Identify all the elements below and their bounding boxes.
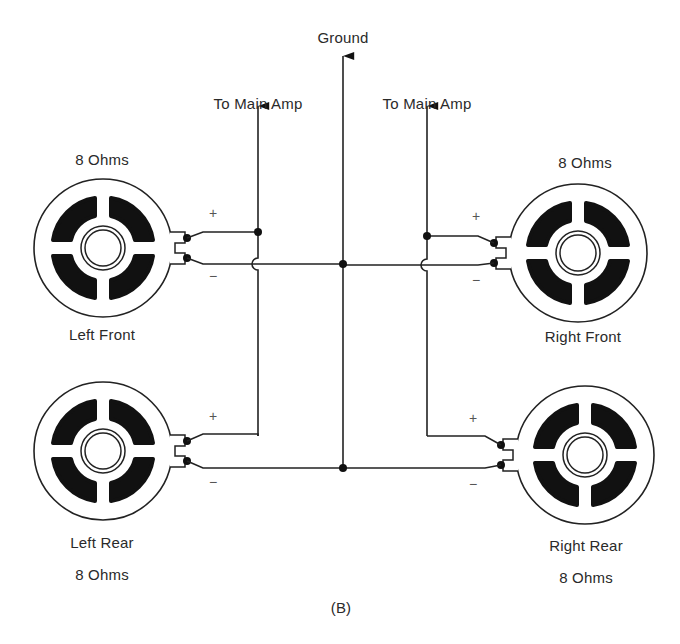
amp-label-left: To Main Amp — [214, 95, 303, 112]
plus-sign-right-rear: + — [469, 410, 477, 426]
junction-ground-rear — [339, 464, 347, 472]
figure-caption: (B) — [331, 599, 352, 616]
plus-sign-left-front: + — [209, 205, 217, 221]
speaker-left-front — [34, 179, 191, 317]
minus-sign-right-rear: − — [469, 476, 477, 492]
impedance-right-rear: 8 Ohms — [559, 569, 613, 586]
ground-label: Ground — [317, 29, 368, 46]
impedance-right-front: 8 Ohms — [558, 154, 612, 171]
impedance-left-front: 8 Ohms — [75, 151, 129, 168]
impedance-left-rear: 8 Ohms — [75, 566, 129, 583]
speaker-name-right-front: Right Front — [545, 328, 621, 345]
minus-sign-left-front: − — [209, 268, 217, 284]
speaker-name-right-rear: Right Rear — [549, 537, 623, 554]
junction-left-front-plus — [254, 228, 262, 236]
speaker-right-front — [490, 184, 647, 322]
plus-sign-left-rear: + — [209, 408, 217, 424]
minus-sign-right-front: − — [472, 272, 480, 288]
speaker-left-rear — [34, 382, 191, 520]
plus-sign-right-front: + — [472, 208, 480, 224]
minus-sign-left-rear: − — [209, 474, 217, 490]
speaker-name-left-rear: Left Rear — [70, 534, 134, 551]
speaker-name-left-front: Left Front — [69, 326, 135, 343]
junction-ground-front — [339, 260, 347, 268]
speaker-right-rear — [497, 386, 654, 524]
amp-label-right: To Main Amp — [383, 95, 472, 112]
junction-right-front-plus — [423, 232, 431, 240]
